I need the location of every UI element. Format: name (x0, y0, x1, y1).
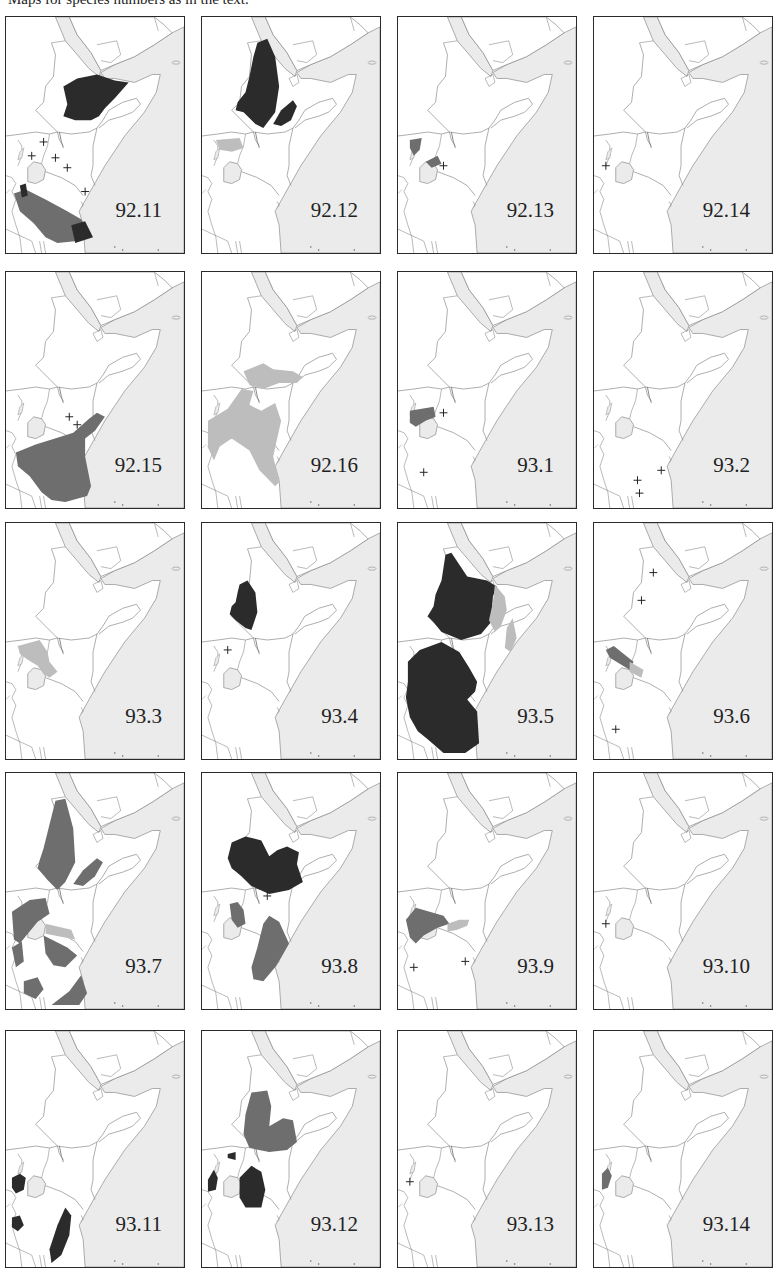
record-cross-icon (649, 569, 657, 577)
record-cross-icon (406, 1178, 414, 1186)
distribution-map-panel: 93.3 (5, 522, 185, 760)
record-cross-icon (40, 138, 48, 146)
distribution-map-panel: 93.7 (5, 772, 185, 1010)
range-area-medium (12, 942, 24, 968)
range-area-dark (12, 1174, 26, 1194)
species-number-label: 93.4 (321, 704, 358, 729)
record-cross-icon (638, 596, 646, 604)
record-cross-icon (636, 489, 644, 497)
distribution-map-panel: 93.12 (201, 1030, 381, 1268)
species-number-label: 93.6 (713, 704, 750, 729)
range-area-dark (12, 1215, 24, 1231)
species-number-label: 93.8 (321, 954, 358, 979)
species-number-label: 93.2 (713, 453, 750, 478)
distribution-map-panel: 93.13 (397, 1030, 577, 1268)
record-cross-icon (224, 646, 232, 654)
range-area-dark (240, 1166, 266, 1208)
record-cross-icon (440, 409, 448, 417)
record-cross-icon (602, 920, 610, 928)
species-number-label: 92.16 (311, 453, 358, 478)
distribution-map-panel: 92.11 (5, 16, 185, 254)
range-area-medium (244, 1090, 297, 1151)
distribution-map-panel: 92.14 (593, 16, 773, 254)
distribution-map-panel: 93.10 (593, 772, 773, 1010)
species-number-label: 92.12 (311, 198, 358, 223)
range-area-dark (63, 75, 128, 121)
range-area-dark (230, 581, 258, 631)
range-area-dark (228, 836, 303, 894)
species-number-label: 93.7 (125, 954, 162, 979)
range-area-medium (24, 977, 44, 999)
species-number-label: 93.9 (517, 954, 554, 979)
species-number-label: 93.10 (703, 954, 750, 979)
range-area-dark (50, 1208, 72, 1264)
distribution-map-panel: 93.11 (5, 1030, 185, 1268)
species-number-label: 93.14 (703, 1212, 750, 1237)
range-area-light (216, 138, 244, 152)
record-cross-icon (65, 413, 73, 421)
range-area-dark (406, 642, 479, 753)
species-number-label: 93.5 (517, 704, 554, 729)
record-cross-icon (657, 466, 665, 474)
species-number-label: 92.15 (115, 453, 162, 478)
range-area-medium (51, 975, 87, 1005)
species-number-label: 93.11 (116, 1212, 162, 1237)
species-number-label: 93.13 (507, 1212, 554, 1237)
species-number-label: 92.14 (703, 198, 750, 223)
record-cross-icon (410, 963, 418, 971)
distribution-map-panel: 93.4 (201, 522, 381, 760)
record-cross-icon (28, 152, 36, 160)
species-number-label: 92.13 (507, 198, 554, 223)
distribution-map-panel: 92.13 (397, 16, 577, 254)
range-area-light (244, 363, 303, 389)
range-area-medium (602, 1168, 612, 1190)
record-cross-icon (420, 468, 428, 476)
distribution-map-panel: 93.1 (397, 271, 577, 509)
distribution-map-panel: 93.9 (397, 772, 577, 1010)
record-cross-icon (602, 162, 610, 170)
range-area-medium (44, 936, 78, 968)
record-cross-icon (612, 725, 620, 733)
distribution-map-panel: 93.8 (201, 772, 381, 1010)
distribution-map-panel: 93.2 (593, 271, 773, 509)
range-area-dark (228, 1152, 236, 1160)
range-area-medium (606, 646, 634, 670)
record-cross-icon (461, 957, 469, 965)
distribution-map-panel: 92.12 (201, 16, 381, 254)
range-area-dark (236, 39, 280, 128)
record-cross-icon (634, 476, 642, 484)
species-number-label: 93.3 (125, 704, 162, 729)
distribution-map-panel: 92.16 (201, 271, 381, 509)
distribution-map-panel: 93.14 (593, 1030, 773, 1268)
species-number-label: 92.11 (116, 198, 162, 223)
range-area-medium (38, 799, 76, 890)
range-area-light (46, 924, 76, 940)
distribution-map-panel: 92.15 (5, 271, 185, 509)
range-area-light (447, 920, 469, 932)
range-area-dark (273, 100, 297, 126)
species-number-label: 93.12 (311, 1212, 358, 1237)
record-cross-icon (63, 164, 71, 172)
distribution-map-panel: 93.5 (397, 522, 577, 760)
record-cross-icon (51, 154, 59, 162)
species-number-label: 93.1 (517, 453, 554, 478)
map-grid: 92.1192.1292.1392.1492.1592.1693.193.293… (0, 0, 780, 1274)
distribution-map-panel: 93.6 (593, 522, 773, 760)
